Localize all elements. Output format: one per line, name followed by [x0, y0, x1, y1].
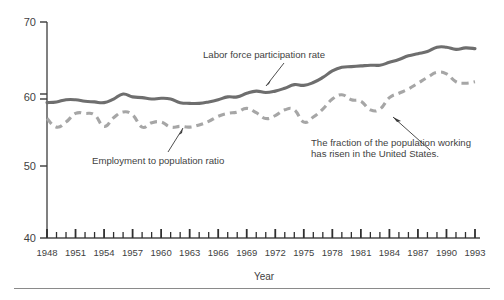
- x-ticks-group: [47, 229, 475, 238]
- x-tick-label-1975: 1975: [293, 247, 314, 258]
- y-ticks-group: 70 60 50 40: [24, 16, 47, 244]
- x-tick-label-1978: 1978: [322, 247, 343, 258]
- x-tick-label-1966: 1966: [208, 247, 229, 258]
- y-tick-label-70: 70: [24, 16, 36, 28]
- annotation-conclusion-line1: The fraction of the population working: [311, 137, 471, 148]
- footer-divider: [14, 288, 490, 289]
- employment-ratio-leader-line: [168, 128, 183, 152]
- x-tick-label-1957: 1957: [122, 247, 143, 258]
- x-tick-label-1990: 1990: [436, 247, 457, 258]
- x-tick-label-1954: 1954: [93, 247, 114, 258]
- x-tick-label-1948: 1948: [36, 247, 57, 258]
- y-tick-label-40: 40: [24, 232, 36, 244]
- line-chart: 70 60 50 40 1948195119541957196019631966…: [0, 0, 504, 300]
- chart-figure: 70 60 50 40 1948195119541957196019631966…: [0, 0, 504, 300]
- x-tick-label-1987: 1987: [407, 247, 428, 258]
- annotation-labor-force-participation-rate: Labor force participation rate: [203, 49, 325, 60]
- annotation-employment-to-population-ratio: Employment to population ratio: [92, 155, 224, 166]
- y-tick-label-60: 60: [24, 91, 36, 103]
- conclusion-note-leader-arrow: [393, 117, 401, 122]
- x-tick-label-1960: 1960: [151, 247, 172, 258]
- labor-force-leader-line: [266, 63, 284, 86]
- x-axis-title: Year: [254, 271, 275, 282]
- annotation-conclusion-line2: has risen in the United States.: [311, 148, 439, 159]
- y-tick-label-50: 50: [24, 160, 36, 172]
- x-tick-label-1993: 1993: [464, 247, 485, 258]
- x-tick-label-1951: 1951: [65, 247, 86, 258]
- x-tick-label-1981: 1981: [350, 247, 371, 258]
- x-tick-label-1969: 1969: [236, 247, 257, 258]
- x-tick-label-1984: 1984: [379, 247, 400, 258]
- x-tick-label-1963: 1963: [179, 247, 200, 258]
- x-tick-label-1972: 1972: [265, 247, 286, 258]
- x-tick-labels-group: 1948195119541957196019631966196919721975…: [36, 247, 485, 258]
